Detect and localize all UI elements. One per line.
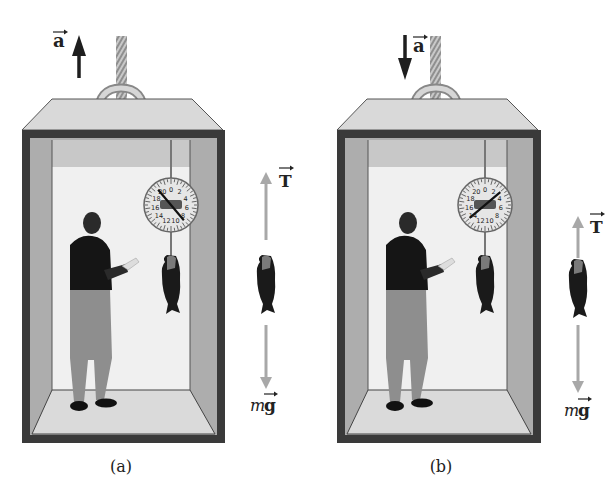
acceleration-label: a [53,30,65,51]
caption-a: (a) [110,457,132,476]
shoe [386,401,404,411]
dial-number: 6 [499,204,503,212]
gravity-label: g [264,395,276,415]
torso [70,236,112,292]
dial-number: 6 [185,204,189,212]
spring-scale-dial: 20024681012141618 [458,178,512,232]
vector-bar-tip [601,212,605,217]
fish-fbd [257,255,275,314]
elevator-floor [32,390,215,434]
dial-number: 14 [155,212,163,220]
acceleration-vector-b: a [398,35,428,81]
ceiling [52,140,190,167]
ceiling [368,140,507,167]
panel-b: a 20024681012141618 [337,35,605,477]
dial-number: 12 [476,217,484,225]
vector-bar-tip [290,166,294,171]
free-body-diagram: T m g [564,212,605,421]
head [399,212,417,234]
acceleration-vector-a: a [53,30,86,79]
tension-label: T [279,171,292,191]
vector-bar-tip [64,30,68,35]
dial-number: 4 [183,195,187,203]
gravity-label: g [578,400,590,420]
fish-fbd [569,259,587,318]
dial-number: 10 [485,217,493,225]
mass-label: m [250,396,265,415]
acceleration-arrow-head-up [72,35,86,56]
dial-number: 18 [152,195,160,203]
shoe [70,401,88,411]
shoe [411,399,433,408]
mass-label: m [564,401,579,420]
dial-number: 8 [495,212,499,220]
dial-number: 10 [171,217,179,225]
torso [386,236,428,292]
caption-b: (b) [430,457,453,476]
dial-number: 0 [483,186,487,194]
tension-label: T [590,217,603,237]
acceleration-label: a [413,35,425,56]
dial-number: 12 [162,217,170,225]
dial-number: 16 [151,204,159,212]
panel-a: a 20024681012141618 [22,30,294,477]
dial-number: 0 [169,186,173,194]
dial-number: 2 [492,188,496,196]
dial-number: 18 [466,195,474,203]
vector-bar-tip [588,397,592,402]
free-body-diagram: T m g [250,166,294,416]
shoe [95,399,117,408]
head [83,212,101,234]
dial-number: 2 [178,188,182,196]
vector-bar-tip [274,392,278,397]
dial-number: 16 [465,204,473,212]
dial-number: 4 [497,195,501,203]
elevator-roof [337,99,538,130]
acceleration-arrow-head-down [398,58,412,80]
elevator-floor [347,390,531,434]
elevator-figure: a 20024681012141618 [0,0,616,497]
elevator-roof [22,99,223,130]
spring-scale-dial: 20024681012141618 [144,178,198,232]
vector-bar-tip [424,35,428,40]
